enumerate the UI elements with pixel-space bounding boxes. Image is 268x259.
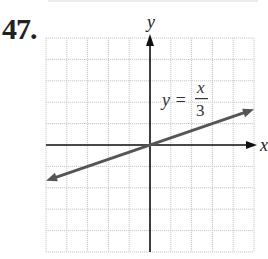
fraction-bar [195, 98, 208, 99]
equation-numerator: x [196, 78, 205, 97]
y-axis-label: y [145, 12, 155, 32]
equation-label: y = x 3 [160, 78, 208, 120]
equation-lhs: y = [160, 90, 187, 110]
x-axis-arrow-icon [246, 141, 257, 149]
coordinate-plane: y x y = x 3 [0, 0, 268, 259]
line-arrow-left-icon [46, 173, 58, 182]
line-arrow-right-icon [242, 109, 254, 118]
y-axis-arrow-icon [146, 34, 154, 46]
equation-denominator: 3 [196, 101, 205, 120]
x-axis-label: x [259, 135, 268, 155]
